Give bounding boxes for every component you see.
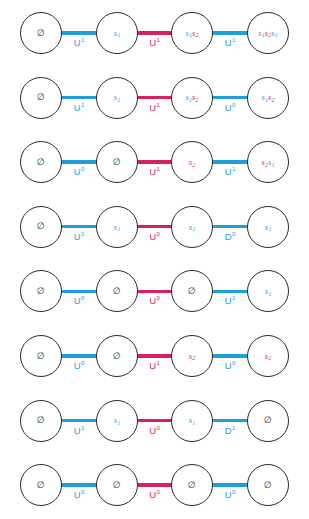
edge [211, 483, 249, 486]
edge [211, 31, 249, 34]
state-node-label: ∅ [113, 481, 121, 490]
state-node-label: s1 [114, 29, 121, 38]
state-node: ∅ [20, 206, 62, 248]
edge [211, 354, 249, 357]
state-node-label: s1s2s1 [258, 29, 278, 38]
state-node-label: s1 [114, 223, 121, 232]
edge [211, 160, 249, 163]
edge [136, 96, 173, 99]
state-node-label: s2 [189, 352, 196, 361]
edge [60, 419, 98, 422]
state-node-label: s1 [114, 416, 121, 425]
edge [136, 290, 173, 293]
state-node-label: ∅ [188, 287, 196, 296]
state-node-label: s1 [265, 223, 272, 232]
state-node: s1s2 [171, 12, 213, 54]
state-node-label: ∅ [264, 416, 272, 425]
edge [60, 483, 98, 486]
state-node: ∅ [20, 12, 62, 54]
state-node-label: s1 [189, 223, 196, 232]
edge [136, 483, 173, 486]
edge [211, 290, 249, 293]
state-node-label: s1 [189, 416, 196, 425]
state-node-label: ∅ [113, 352, 121, 361]
state-node: s1 [171, 400, 213, 442]
state-node: s1 [96, 77, 138, 119]
state-node: s2 [171, 141, 213, 183]
diagram-row: U0U1U0∅∅s2s2 [0, 335, 309, 391]
state-node: ∅ [20, 77, 62, 119]
edge [60, 31, 98, 34]
state-node-label: ∅ [264, 481, 272, 490]
state-node: s2s1 [247, 141, 289, 183]
diagram-row: U1U1U0∅s1s1s2s1s2 [0, 77, 309, 133]
state-node: s1 [171, 206, 213, 248]
state-node: s1 [96, 12, 138, 54]
state-node: ∅ [96, 464, 138, 506]
edge [211, 225, 249, 228]
edge [211, 419, 249, 422]
state-node-label: s2 [265, 352, 272, 361]
state-node: ∅ [247, 464, 289, 506]
edge [136, 160, 173, 163]
state-node: ∅ [96, 141, 138, 183]
state-node: ∅ [96, 335, 138, 377]
state-node-label: s1 [114, 93, 121, 102]
state-node-label: ∅ [37, 222, 45, 231]
edge [136, 354, 173, 357]
edge [136, 31, 173, 34]
state-node: ∅ [20, 464, 62, 506]
state-node: ∅ [20, 335, 62, 377]
diagram-row: U0U1U1∅∅s2s2s1 [0, 141, 309, 197]
edge [60, 225, 98, 228]
edge [211, 96, 249, 99]
state-node-label: s1s2 [185, 29, 198, 38]
state-node-label: ∅ [37, 93, 45, 102]
state-node: s1 [247, 206, 289, 248]
state-node-label: s2 [189, 158, 196, 167]
diagram-row: U1U1U1∅s1s1s2s1s2s1 [0, 12, 309, 68]
state-node: s1s2s1 [247, 12, 289, 54]
state-node: s1 [96, 206, 138, 248]
state-transition-diagram: U1U1U1∅s1s1s2s1s2s1U1U1U0∅s1s1s2s1s2U0U1… [0, 0, 309, 519]
state-node-label: ∅ [188, 481, 196, 490]
edge [60, 96, 98, 99]
state-node-label: ∅ [37, 287, 45, 296]
edge [136, 419, 173, 422]
state-node: s1 [96, 400, 138, 442]
state-node-label: ∅ [37, 352, 45, 361]
state-node-label: ∅ [37, 416, 45, 425]
diagram-row: U1U0D1∅s1s1∅ [0, 400, 309, 456]
diagram-row: U1U0D0∅s1s1s1 [0, 206, 309, 262]
state-node-label: ∅ [37, 158, 45, 167]
state-node: ∅ [247, 400, 289, 442]
edge [60, 160, 98, 163]
state-node-label: s1s2 [185, 93, 198, 102]
edge [60, 354, 98, 357]
state-node-label: ∅ [113, 158, 121, 167]
edge [60, 290, 98, 293]
state-node: s2 [171, 335, 213, 377]
state-node: s1s2 [171, 77, 213, 119]
state-node: ∅ [20, 400, 62, 442]
state-node-label: ∅ [37, 481, 45, 490]
state-node: s1 [247, 270, 289, 312]
state-node: ∅ [171, 464, 213, 506]
state-node-label: ∅ [37, 29, 45, 38]
figure-caption-strip [0, 508, 309, 519]
diagram-row: U0U0U1∅∅∅s1 [0, 270, 309, 326]
state-node-label: ∅ [113, 287, 121, 296]
state-node: ∅ [20, 141, 62, 183]
edge [136, 225, 173, 228]
state-node: s2 [247, 335, 289, 377]
state-node: s1s2 [247, 77, 289, 119]
state-node-label: s2s1 [261, 158, 274, 167]
state-node-label: s1 [265, 287, 272, 296]
state-node-label: s1s2 [261, 93, 274, 102]
